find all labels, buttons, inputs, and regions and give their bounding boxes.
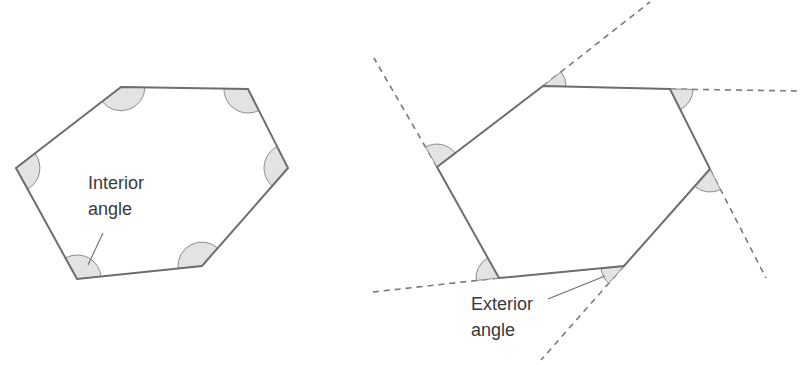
interior-angle-label-line2: angle	[88, 199, 132, 219]
interior-angle-wedge	[264, 147, 288, 186]
hexagon-outline	[16, 87, 288, 279]
polygon-angles-diagram: Interior angle Exterior angle	[0, 0, 803, 365]
exterior-angle-wedge	[670, 89, 693, 110]
exterior-angle-label-line2: angle	[471, 320, 515, 340]
exterior-angle-label-line1: Exterior	[471, 294, 533, 314]
interior-angle-leader-line	[88, 233, 103, 265]
interior-angle-hexagon: Interior angle	[16, 87, 288, 279]
exterior-angle-wedge	[543, 72, 566, 87]
interior-angle-label-line1: Interior	[88, 173, 144, 193]
exterior-angle-leader-line	[548, 276, 605, 299]
exterior-angle-wedge	[476, 258, 499, 281]
interior-angle-wedge	[102, 87, 145, 111]
exterior-angle-hexagon: Exterior angle	[373, 2, 800, 360]
hexagon-outline	[437, 86, 710, 278]
